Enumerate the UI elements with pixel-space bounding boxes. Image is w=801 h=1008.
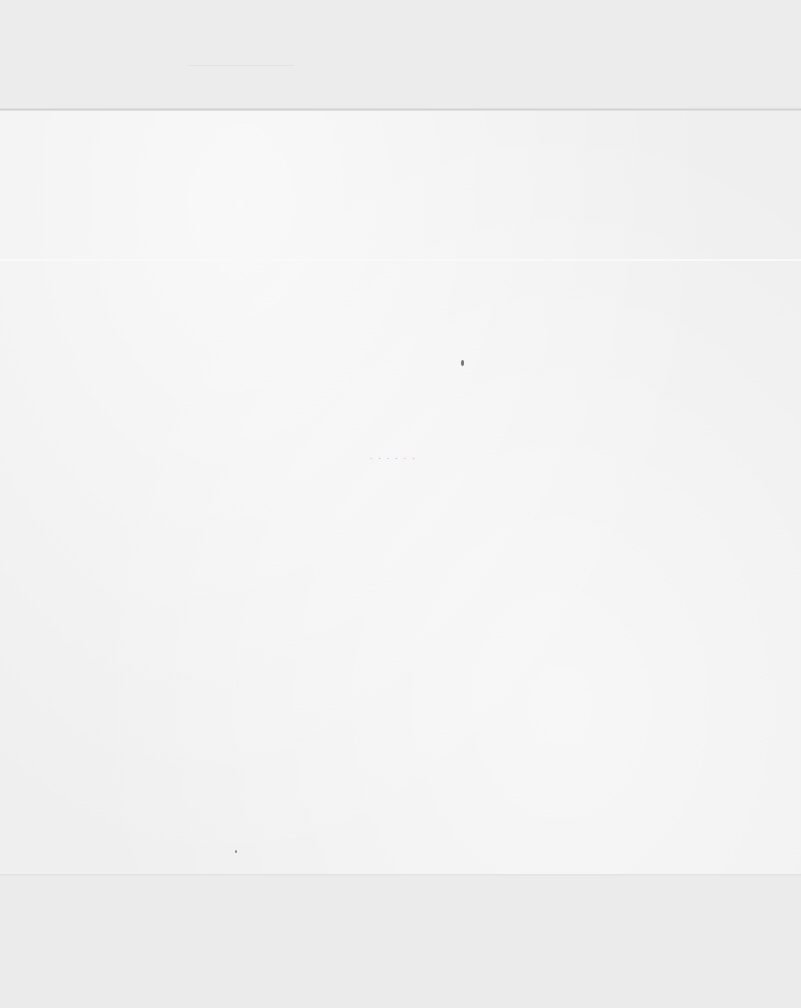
blank-scanned-page: . . . . . . (0, 0, 801, 1008)
bottom-paper-band (0, 876, 801, 1008)
faint-rule-line (188, 65, 294, 66)
ink-speck (461, 360, 464, 366)
ink-speck (235, 850, 237, 853)
top-fold-line (0, 108, 801, 111)
top-paper-band (0, 0, 801, 108)
middle-fold-line (0, 259, 801, 261)
dotted-specks: . . . . . . (370, 452, 416, 461)
